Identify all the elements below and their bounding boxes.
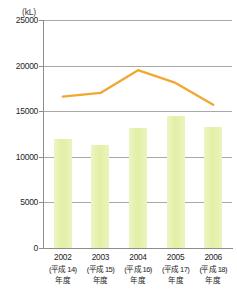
x-axis-label-2006: 2006(平成 18)年度 xyxy=(191,252,235,287)
y-axis-tick-mark xyxy=(39,20,43,21)
bar-2003 xyxy=(91,145,109,248)
chart-title xyxy=(6,0,206,4)
bar-2002 xyxy=(54,139,72,248)
y-axis-tick-mark xyxy=(39,66,43,67)
y-axis-tick-mark xyxy=(39,157,43,158)
y-axis-tick-mark xyxy=(39,202,43,203)
x-axis-line xyxy=(43,248,233,249)
y-axis-tick-label: 5000 xyxy=(0,197,38,207)
gridline xyxy=(44,20,232,21)
y-axis-tick-label: 15000 xyxy=(0,106,38,116)
plot-area xyxy=(44,20,232,248)
y-axis-tick-mark xyxy=(39,111,43,112)
y-axis-tick-label: 20000 xyxy=(0,61,38,71)
chart-container: (kL) 0500010000150002000025000 2002(平成 1… xyxy=(0,0,237,293)
y-axis-tick-label: 25000 xyxy=(0,15,38,25)
y-axis-tick-label: 10000 xyxy=(0,152,38,162)
x-label-suffix: 年度 xyxy=(191,275,235,287)
x-label-era: (平成 18) xyxy=(191,264,235,276)
y-axis-tick-mark xyxy=(39,248,43,249)
x-label-year: 2006 xyxy=(191,252,235,264)
y-axis-tick-label: 0 xyxy=(0,243,38,253)
bar-2004 xyxy=(129,128,147,248)
gridline xyxy=(44,66,232,67)
bar-2005 xyxy=(167,116,185,248)
bar-2006 xyxy=(204,127,222,248)
gridline xyxy=(44,111,232,112)
